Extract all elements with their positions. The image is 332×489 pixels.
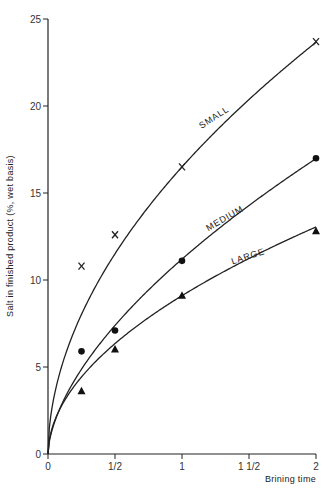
curve-label-large: LARGE [230, 246, 266, 266]
circle-marker [112, 327, 119, 334]
x-marker [179, 163, 185, 170]
curve-medium [48, 159, 316, 454]
x-tick-label: 2 [313, 461, 319, 472]
curve-label-medium: MEDIUM [204, 204, 245, 233]
triangle-marker [178, 291, 186, 299]
data-points [78, 38, 321, 394]
x-axis-title: Brining time [265, 474, 316, 484]
circle-marker [78, 348, 85, 355]
x-marker [313, 38, 319, 45]
y-tick-label: 0 [35, 449, 41, 460]
circle-marker [179, 258, 186, 265]
y-tick-label: 25 [30, 14, 42, 25]
circle-marker [313, 155, 320, 162]
y-axis-title: Salt in finished product (%, wet basis) [5, 155, 15, 317]
x-tick-label: 1/2 [108, 461, 122, 472]
axes: 051015202501/211 1/22 [30, 14, 319, 473]
x-marker [112, 231, 118, 238]
y-tick-label: 10 [30, 275, 42, 286]
curve-labels: SMALLMEDIUMLARGE [197, 104, 266, 266]
x-tick-label: 0 [45, 461, 51, 472]
y-tick-label: 15 [30, 188, 42, 199]
chart: 051015202501/211 1/22 SMALLMEDIUMLARGE B… [0, 0, 332, 489]
x-marker [79, 263, 85, 270]
y-tick-label: 20 [30, 101, 42, 112]
curve-label-small: SMALL [197, 104, 231, 131]
fitted-curves [48, 42, 316, 454]
curve-small [48, 42, 316, 454]
x-tick-label: 1 1/2 [238, 461, 261, 472]
triangle-marker [78, 387, 86, 395]
y-tick-label: 5 [35, 362, 41, 373]
x-tick-label: 1 [179, 461, 185, 472]
